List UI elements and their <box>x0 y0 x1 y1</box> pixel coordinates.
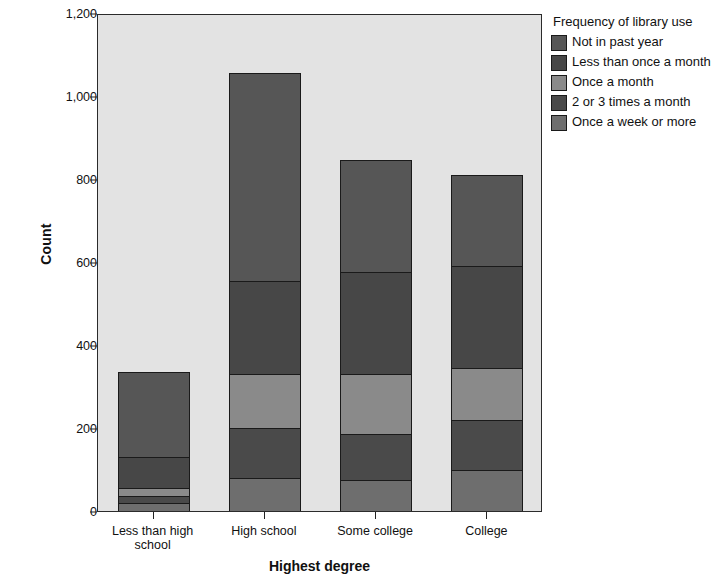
bar-segment[interactable] <box>451 368 523 420</box>
legend: Frequency of library use Not in past yea… <box>551 14 727 134</box>
y-tick-mark <box>90 180 97 181</box>
y-tick-label: 1,200 <box>35 7 97 21</box>
x-axis-title: Highest degree <box>97 558 542 574</box>
bar-high-school[interactable] <box>229 73 301 511</box>
bar-segment[interactable] <box>118 372 190 457</box>
y-axis-title: Count <box>38 204 54 284</box>
y-tick-mark <box>90 346 97 347</box>
bar-segment[interactable] <box>229 281 301 374</box>
y-tick-mark <box>90 263 97 264</box>
legend-item-label: 2 or 3 times a month <box>572 94 691 109</box>
x-tick-label: Less than high school <box>97 524 208 552</box>
legend-item[interactable]: Once a week or more <box>551 114 727 131</box>
bar-segment[interactable] <box>118 488 190 496</box>
legend-item-label: Once a month <box>572 74 654 89</box>
y-tick-label: 0 <box>35 505 97 519</box>
x-tick-label: College <box>431 524 542 538</box>
legend-items: Not in past yearLess than once a monthOn… <box>551 34 727 131</box>
legend-swatch-icon <box>551 115 567 131</box>
legend-swatch-icon <box>551 35 567 51</box>
y-tick-label: 1,000 <box>35 90 97 104</box>
legend-swatch-icon <box>551 75 567 91</box>
x-tick-mark <box>153 512 154 519</box>
x-tick-mark <box>375 512 376 519</box>
bars-container <box>98 15 541 511</box>
bar-segment[interactable] <box>451 420 523 470</box>
y-tick-mark <box>90 97 97 98</box>
bar-segment[interactable] <box>451 175 523 266</box>
x-tick-mark <box>264 512 265 519</box>
bar-segment[interactable] <box>118 503 190 511</box>
bar-segment[interactable] <box>118 457 190 488</box>
chart-root: 02004006008001,0001,200 Count Less than … <box>0 0 727 588</box>
legend-item[interactable]: Once a month <box>551 74 727 91</box>
y-tick-label: 400 <box>35 339 97 353</box>
y-tick-mark <box>90 429 97 430</box>
legend-item[interactable]: 2 or 3 times a month <box>551 94 727 111</box>
bar-segment[interactable] <box>340 374 412 434</box>
bar-segment[interactable] <box>229 374 301 428</box>
bar-segment[interactable] <box>229 478 301 511</box>
x-tick-label: Some college <box>320 524 431 538</box>
bar-segment[interactable] <box>340 480 412 511</box>
y-tick-mark <box>90 14 97 15</box>
bar-segment[interactable] <box>340 434 412 480</box>
legend-item-label: Less than once a month <box>572 54 711 69</box>
bar-segment[interactable] <box>229 73 301 281</box>
x-tick-label: High school <box>208 524 319 538</box>
plot-area <box>97 14 542 512</box>
bar-segment[interactable] <box>340 272 412 374</box>
legend-item-label: Once a week or more <box>572 114 696 129</box>
bar-segment[interactable] <box>451 266 523 368</box>
y-tick-mark <box>90 512 97 513</box>
legend-item-label: Not in past year <box>572 34 663 49</box>
bar-segment[interactable] <box>451 470 523 512</box>
bar-college[interactable] <box>451 175 523 511</box>
legend-swatch-icon <box>551 55 567 71</box>
bar-segment[interactable] <box>229 428 301 478</box>
legend-swatch-icon <box>551 95 567 111</box>
y-tick-label: 800 <box>35 173 97 187</box>
legend-item[interactable]: Not in past year <box>551 34 727 51</box>
bar-segment[interactable] <box>340 160 412 272</box>
y-axis: 02004006008001,0001,200 <box>28 0 97 588</box>
y-tick-label: 200 <box>35 422 97 436</box>
x-tick-mark <box>486 512 487 519</box>
legend-item[interactable]: Less than once a month <box>551 54 727 71</box>
bar-less-than-high-school[interactable] <box>118 372 190 511</box>
bar-some-college[interactable] <box>340 160 412 511</box>
legend-title: Frequency of library use <box>553 14 727 29</box>
